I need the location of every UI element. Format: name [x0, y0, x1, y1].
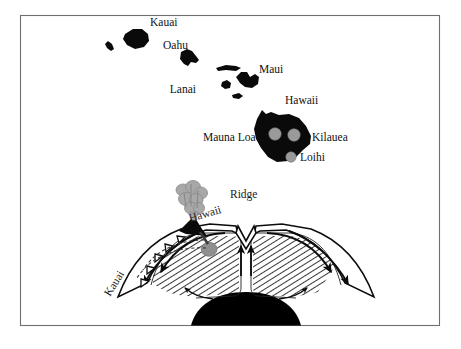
- island-kauai: [123, 29, 149, 49]
- island-lanai: [221, 80, 231, 89]
- island-kahoolawe: [232, 93, 243, 99]
- label-oahu: Oahu: [163, 39, 188, 51]
- marker-kilauea: [288, 129, 300, 141]
- island-molokai: [216, 65, 241, 71]
- label-loihi: Loihi: [300, 151, 325, 163]
- label-maui: Maui: [259, 63, 283, 75]
- figure-container: Kauai Oahu Lanai Maui Hawaii Mauna Loa K…: [0, 0, 461, 349]
- figure-svg: Kauai Oahu Lanai Maui Hawaii Mauna Loa K…: [0, 0, 461, 349]
- island-maui: [236, 72, 259, 88]
- label-hawaii-island: Hawaii: [285, 94, 318, 106]
- cross-section-group: Ridge Hawaii Kauai: [102, 181, 374, 331]
- label-kilauea: Kilauea: [312, 131, 348, 143]
- label-mauna-loa: Mauna Loa: [203, 131, 256, 143]
- marker-mauna-loa: [269, 128, 281, 140]
- island-oahu: [180, 49, 199, 66]
- label-ridge-xsec: Ridge: [230, 188, 257, 201]
- label-lanai: Lanai: [170, 83, 196, 95]
- hotspot-blob: [201, 242, 217, 256]
- island-niihau: [105, 41, 114, 51]
- map-label-group: Kauai Oahu Lanai Maui Hawaii Mauna Loa K…: [150, 16, 348, 163]
- marker-loihi: [286, 152, 296, 162]
- label-kauai: Kauai: [150, 16, 177, 28]
